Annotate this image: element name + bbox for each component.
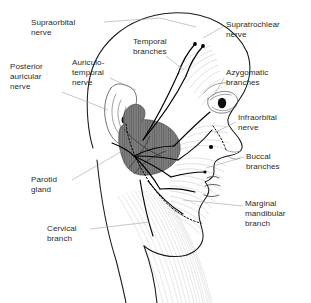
label-buccal-branches-line-1: Buccal	[246, 152, 271, 161]
label-auriculotemporal-nerve-line-2: temporal	[72, 68, 104, 77]
label-marginal-mandibular-branch-line-3: branch	[245, 219, 270, 228]
label-parotid-gland-line-2: gland	[31, 185, 51, 194]
label-marginal-mandibular-branch-line-2: mandibular	[245, 209, 286, 218]
label-temporal-branches-line-1: Temporal	[133, 37, 167, 46]
label-azygomatic-branches-line-2: branches	[226, 78, 260, 87]
label-infraorbital-nerve: Infraorbitalnerve	[238, 113, 277, 133]
label-supratrochlear-nerve-line-2: nerve	[226, 30, 247, 39]
label-auriculotemporal-nerve-line-1: Auriculo-	[72, 58, 104, 67]
neck-striations	[118, 190, 212, 303]
temple-striations	[176, 46, 222, 105]
label-azygomatic-branches-line-1: Azygomatic	[226, 68, 268, 77]
label-supraorbital-nerve-line-2: nerve	[31, 28, 52, 37]
label-posterior-auricular-nerve-line-3: nerve	[10, 82, 31, 91]
label-infraorbital-nerve-line-2: nerve	[238, 123, 259, 132]
label-buccal-branches-line-2: branches	[246, 162, 280, 171]
label-parotid-gland-line-1: Parotid	[31, 175, 57, 184]
label-temporal-branches-line-2: branches	[133, 47, 167, 56]
label-marginal-mandibular-branch: Marginalmandibularbranch	[245, 199, 286, 230]
label-infraorbital-nerve-line-1: Infraorbital	[238, 113, 277, 122]
label-auriculotemporal-nerve-line-3: nerve	[72, 78, 93, 87]
label-supraorbital-nerve-line-1: Supraorbital	[31, 18, 75, 27]
label-auriculotemporal-nerve: Auriculo-temporalnerve	[72, 58, 104, 89]
label-posterior-auricular-nerve: Posteriorauricularnerve	[10, 62, 43, 93]
anatomical-diagram-facial-nerve: Supraorbitalnerve Posteriorauricularnerv…	[0, 0, 311, 303]
label-cervical-branch: Cervicalbranch	[47, 224, 77, 244]
label-cervical-branch-line-1: Cervical	[47, 224, 77, 233]
label-temporal-branches: Temporalbranches	[133, 37, 167, 57]
parotid-gland-mass	[119, 104, 180, 175]
label-supratrochlear-nerve-line-1: Supratrochlear	[226, 20, 280, 29]
label-supraorbital-nerve: Supraorbitalnerve	[31, 18, 75, 38]
label-marginal-mandibular-branch-line-1: Marginal	[245, 199, 276, 208]
label-supratrochlear-nerve: Supratrochlearnerve	[226, 20, 280, 40]
label-azygomatic-branches: Azygomaticbranches	[226, 68, 268, 88]
label-posterior-auricular-nerve-line-2: auricular	[10, 72, 42, 81]
label-cervical-branch-line-2: branch	[47, 234, 72, 243]
lips	[204, 177, 220, 197]
label-buccal-branches: Buccalbranches	[246, 152, 280, 172]
label-parotid-gland: Parotidgland	[31, 175, 57, 195]
label-posterior-auricular-nerve-line-1: Posterior	[10, 62, 43, 71]
